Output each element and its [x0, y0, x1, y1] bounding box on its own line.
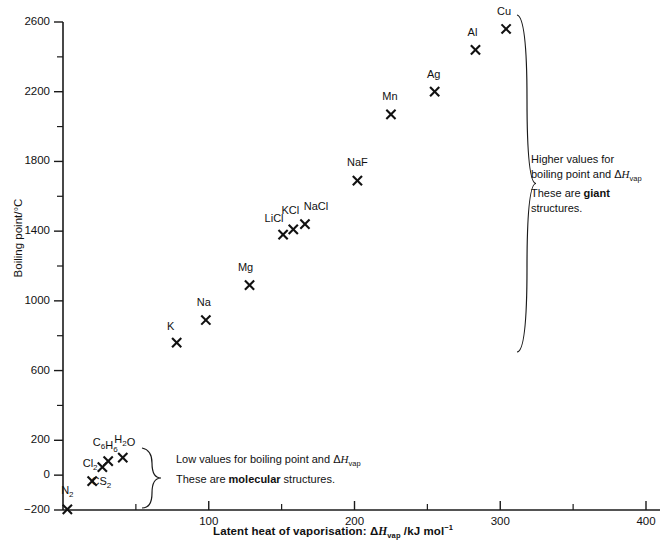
tick-label-group: −200200600100014001800220026000100200300…: [24, 15, 656, 527]
data-point-label-Ag: Ag: [427, 68, 440, 80]
annotation-molecular: Low values for boiling point and ΔHvap T…: [176, 452, 456, 486]
scatter-chart: −200200600100014001800220026000100200300…: [0, 0, 666, 547]
data-point-LiCl: [278, 230, 287, 239]
annotation-molecular-line2: These are molecular structures.: [176, 472, 456, 487]
bracket-group: [142, 15, 536, 508]
x-axis-title-suffix: /kJ mol: [401, 525, 445, 537]
annotation-molecular-emphasis: molecular: [229, 473, 281, 485]
data-point-KCl: [289, 225, 298, 234]
x-axis-title: Latent heat of vaporisation: ΔHvap /kJ m…: [0, 523, 666, 540]
data-point-K: [172, 338, 181, 347]
data-point-H2O: [118, 453, 127, 462]
data-point-label-NaF: NaF: [347, 156, 368, 168]
y-tick-label: 1400: [24, 224, 50, 236]
annotation-giant-line4: structures.: [531, 201, 659, 216]
annotation-molecular-line2-c: structures.: [281, 473, 335, 485]
data-point-label-Cu: Cu: [497, 5, 511, 17]
annotation-molecular-line1: Low values for boiling point and ΔHvap: [176, 452, 456, 472]
x-axis-title-sub: vap: [387, 531, 400, 540]
annotation-molecular-line1-text: Low values for boiling point and: [176, 453, 333, 465]
y-tick-label: 2200: [24, 85, 50, 97]
y-tick-label: 200: [31, 433, 50, 445]
data-point-label-CS2: CS2: [91, 475, 111, 490]
data-point-label-Mg: Mg: [238, 261, 253, 273]
data-point-Al: [471, 45, 480, 54]
y-tick-label: 600: [31, 364, 50, 376]
annotation-giant-emphasis: giant: [584, 187, 610, 199]
data-point-C6H6: [104, 457, 113, 466]
data-point-Mn: [386, 110, 395, 119]
data-point-label-group: N2Cl2CS2C6H6H2OKNaMgLiClKClNaClNaFMnAgAl…: [61, 5, 511, 499]
y-tick-label: 2600: [24, 15, 50, 27]
data-point-Ag: [430, 87, 439, 96]
data-point-NaF: [353, 176, 362, 185]
annotation-giant-h: H: [622, 168, 630, 180]
annotation-giant-line2: boiling point and ΔHvap: [531, 167, 659, 187]
y-tick-label: −200: [24, 503, 50, 515]
data-point-NaCl: [300, 220, 309, 229]
annotation-molecular-line2-a: These are: [176, 473, 229, 485]
annotation-giant-line3: These are giant: [531, 186, 659, 201]
x-axis-title-superscript: −1: [444, 523, 453, 532]
annotation-molecular-delta: Δ: [333, 453, 340, 465]
y-axis-title: Boiling point/°C: [12, 163, 24, 313]
data-point-Na: [201, 315, 210, 324]
x-axis-title-h: H: [378, 525, 387, 537]
data-point-label-Cl2: Cl2: [83, 457, 98, 472]
annotation-giant-sub: vap: [630, 174, 642, 183]
data-point-label-K: K: [167, 320, 175, 332]
data-point-Cu: [501, 24, 510, 33]
data-point-Mg: [245, 281, 254, 290]
annotation-molecular-sub: vap: [348, 459, 360, 468]
y-tick-label: 0: [44, 468, 50, 480]
annotation-giant-delta: Δ: [614, 168, 621, 180]
annotation-giant-line3-a: These are: [531, 187, 584, 199]
axes-group: [63, 22, 660, 510]
data-point-label-Al: Al: [468, 26, 478, 38]
data-point-label-Na: Na: [197, 296, 212, 308]
annotation-giant-line2-a: boiling point and: [531, 168, 614, 180]
annotation-giant-line1: Higher values for: [531, 152, 659, 167]
x-axis-title-prefix: Latent heat of vaporisation:: [213, 525, 370, 537]
data-point-label-Mn: Mn: [382, 90, 397, 102]
annotation-giant: Higher values for boiling point and ΔHva…: [531, 152, 659, 215]
tick-group: [54, 22, 646, 510]
data-point-label-KCl: KCl: [281, 204, 299, 216]
data-point-label-NaCl: NaCl: [304, 200, 328, 212]
bracket-molecular: [142, 448, 161, 508]
y-tick-label: 1000: [24, 294, 50, 306]
y-tick-label: 1800: [24, 154, 50, 166]
